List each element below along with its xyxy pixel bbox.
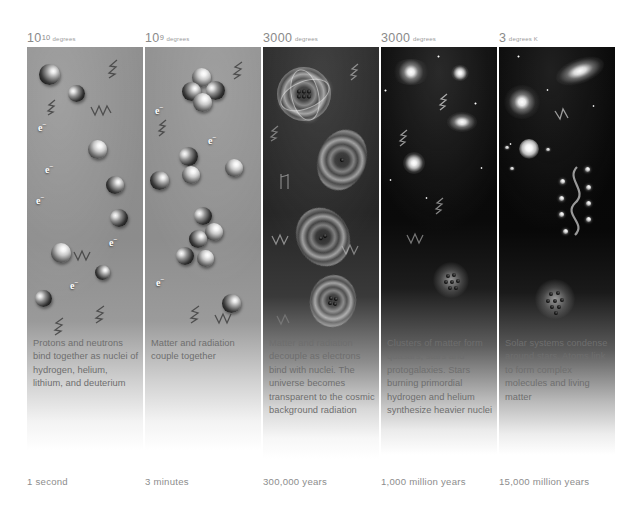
panel-5-temp-value: 3	[499, 32, 506, 45]
nucleon	[110, 209, 128, 227]
panel-2-temp-value: 10	[145, 32, 160, 45]
molecule-atom	[585, 167, 590, 172]
nucleon	[189, 230, 207, 248]
galaxy	[552, 51, 607, 91]
panel-1-temperature: 1010degrees	[27, 17, 143, 47]
panel-2-temp-unit: degrees	[166, 36, 189, 42]
photon-wave-icon	[188, 305, 203, 324]
electron-label: e−	[70, 279, 78, 291]
star	[509, 143, 512, 146]
nucleon	[68, 85, 85, 102]
quasar	[451, 65, 469, 81]
molecule-atom	[586, 201, 591, 206]
nucleon	[35, 290, 52, 307]
panel-5-artwork: Solar systems condense around stars. Ato…	[499, 47, 615, 463]
molecule-atom	[563, 229, 568, 234]
atom	[277, 67, 331, 121]
star	[384, 89, 387, 92]
panel-3-temp-unit: degrees	[295, 36, 318, 42]
protogalaxy	[447, 112, 477, 132]
photon-wave-icon	[271, 233, 291, 246]
panel-1-background: e− e− e− e− e−	[27, 47, 143, 463]
panel-2[interactable]: 109degrees	[145, 17, 261, 499]
nucleon	[193, 93, 212, 112]
photon-wave-icon	[73, 249, 91, 262]
nucleon	[51, 243, 71, 263]
panel-1-temp-value: 10	[27, 32, 42, 45]
panel-3-temperature: 3000degrees	[263, 17, 379, 47]
nucleon	[205, 223, 223, 241]
molecule-atom	[559, 212, 564, 217]
nucleon	[88, 140, 107, 159]
nucleon	[194, 207, 212, 225]
photon-wave-icon	[45, 99, 59, 116]
photon-wave-icon	[106, 59, 121, 79]
nucleon	[106, 176, 124, 194]
electron-label: e−	[38, 121, 46, 133]
figure-root: 1010degrees e− e− e− e− e−	[0, 0, 626, 518]
nucleon	[225, 159, 243, 177]
panel-4-temperature: 3000degrees	[381, 17, 497, 47]
molecule-atom	[586, 217, 591, 222]
photon-wave-icon	[554, 107, 570, 124]
molecule-atom	[560, 179, 565, 184]
electron-label: e−	[208, 134, 216, 146]
nucleon	[176, 247, 194, 265]
molecule-chain	[555, 165, 599, 237]
photon-wave-icon	[348, 63, 362, 81]
panel-5-temp-unit: degrees K	[509, 36, 538, 42]
atom	[306, 271, 360, 330]
star	[517, 55, 520, 58]
panel-5[interactable]: 3degrees K	[499, 17, 615, 499]
panel-strip: 1010degrees e− e− e− e− e−	[27, 17, 615, 499]
nucleon	[95, 265, 110, 280]
panel-4-temp-unit: degrees	[413, 36, 436, 42]
panel-5-caption: Solar systems condense around stars. Ato…	[505, 337, 611, 404]
panel-1-temp-exponent: 10	[42, 34, 50, 42]
panel-4[interactable]: 3000degrees	[381, 17, 497, 499]
nucleon	[197, 250, 214, 267]
panel-3-time: 300,000 years	[263, 463, 379, 499]
star	[389, 179, 392, 182]
photon-wave-icon	[157, 119, 170, 137]
photon-wave-icon	[214, 312, 234, 325]
planet	[546, 148, 550, 152]
atom-nucleus	[327, 296, 339, 307]
nucleon	[150, 171, 169, 190]
panel-5-temperature: 3degrees K	[499, 17, 615, 47]
star	[403, 152, 425, 174]
electron-label: e−	[45, 163, 53, 175]
panel-4-artwork: Clusters of matter form quasars, stars a…	[381, 47, 497, 463]
photon-wave-icon	[406, 232, 424, 245]
panel-4-caption: Clusters of matter form quasars, stars a…	[387, 337, 493, 417]
nucleon	[39, 64, 60, 85]
electron-label: e−	[156, 276, 164, 288]
panel-3-temp-value: 3000	[263, 32, 292, 45]
photon-wave-icon	[52, 317, 67, 336]
panel-3[interactable]: 3000degrees	[263, 17, 379, 499]
panel-2-artwork: e− e− e− Matter and ra	[145, 47, 261, 463]
panel-1-artwork: e− e− e− e− e−	[27, 47, 143, 463]
photon-wave-icon	[231, 61, 246, 80]
nucleus-cluster	[535, 279, 575, 319]
panel-2-temp-exponent: 9	[160, 34, 164, 42]
planet	[510, 167, 514, 171]
panel-1[interactable]: 1010degrees e− e− e− e− e−	[27, 17, 143, 499]
photon-wave-icon	[93, 305, 108, 324]
molecule-atom	[559, 196, 564, 201]
photon-wave-icon	[341, 243, 359, 256]
star	[425, 197, 428, 200]
panel-1-temp-unit: degrees	[53, 36, 76, 42]
photon-wave-icon	[433, 197, 447, 215]
panel-2-time: 3 minutes	[145, 463, 261, 499]
panel-2-background: e− e− e−	[145, 47, 261, 463]
star	[437, 55, 440, 58]
electron-label: e−	[155, 104, 163, 116]
spiral-galaxy	[503, 85, 541, 119]
panel-2-temperature: 109degrees	[145, 17, 261, 47]
atom	[309, 123, 375, 198]
star	[480, 167, 483, 170]
nucleon	[222, 294, 241, 313]
photon-wave-icon	[90, 104, 112, 117]
panel-5-time: 15,000 million years	[499, 463, 615, 499]
